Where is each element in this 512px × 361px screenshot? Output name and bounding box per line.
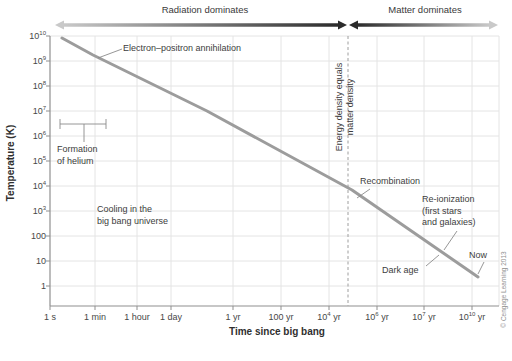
energy-density-annotation: Energy density equals matter density bbox=[334, 52, 356, 162]
reionization-line-3: and galaxies) bbox=[422, 217, 476, 229]
y-tick-label: 1010 bbox=[8, 31, 46, 41]
annotation-leader-line bbox=[478, 262, 484, 274]
y-tick-label: 104 bbox=[8, 181, 46, 191]
x-tick-label: 1 s bbox=[28, 312, 72, 322]
plot-svg bbox=[0, 0, 512, 361]
y-tick-label: 1 bbox=[8, 281, 46, 291]
formation-of-helium-annotation: Formation of helium bbox=[57, 143, 98, 167]
y-tick-label: 100 bbox=[8, 231, 46, 241]
recombination-annotation: Recombination bbox=[360, 175, 420, 187]
y-tick-label: 107 bbox=[8, 106, 46, 116]
formation-line-1: Formation bbox=[57, 143, 98, 155]
y-tick-label: 10 bbox=[8, 256, 46, 266]
matter-arrow-left-head bbox=[349, 21, 358, 30]
formation-line-2: of helium bbox=[57, 155, 98, 167]
cooling-annotation: Cooling in the big bang universe bbox=[97, 203, 168, 227]
annotation-leader-line bbox=[98, 49, 122, 58]
reionization-line-1: Re-ionization bbox=[422, 194, 476, 206]
matter-arrow-right-head bbox=[489, 21, 498, 30]
x-tick-label: 1 day bbox=[149, 312, 193, 322]
y-tick-label: 105 bbox=[8, 156, 46, 166]
energy-line-2: matter density bbox=[345, 52, 356, 162]
chart-layer bbox=[46, 36, 499, 310]
energy-line-1: Energy density equals bbox=[334, 52, 345, 162]
x-tick-label: 107 yr bbox=[402, 312, 446, 322]
radiation-arrow-left-head bbox=[55, 21, 64, 30]
x-axis-title: Time since big bang bbox=[222, 326, 332, 337]
matter-arrow bbox=[349, 21, 498, 30]
cosmology-temperature-figure: Radiation dominates Matter dominates Tem… bbox=[0, 0, 512, 361]
temperature-curve bbox=[62, 38, 478, 277]
dark-age-annotation: Dark age bbox=[382, 264, 419, 276]
electron-positron-annotation: Electron–positron annihilation bbox=[123, 42, 241, 54]
y-tick-label: 108 bbox=[8, 81, 46, 91]
x-tick-label: 106 yr bbox=[355, 312, 399, 322]
x-tick-label: 1 min bbox=[73, 312, 117, 322]
matter-dominates-label: Matter dominates bbox=[375, 4, 475, 15]
radiation-arrow bbox=[55, 21, 347, 30]
radiation-arrow-right-head bbox=[338, 21, 347, 30]
x-tick-label: 1 yr bbox=[211, 312, 255, 322]
cooling-line-1: Cooling in the bbox=[97, 203, 168, 215]
now-annotation: Now bbox=[469, 249, 487, 261]
copyright-credit: © Cengage Learning 2013 bbox=[500, 235, 509, 345]
cooling-line-2: big bang universe bbox=[97, 215, 168, 227]
x-tick-label: 1010 yr bbox=[450, 312, 494, 322]
reionization-line-2: (first stars bbox=[422, 206, 476, 218]
reionization-annotation: Re-ionization (first stars and galaxies) bbox=[422, 194, 476, 229]
x-tick-label: 104 yr bbox=[307, 312, 351, 322]
y-tick-label: 109 bbox=[8, 56, 46, 66]
x-tick-label: 100 yr bbox=[259, 312, 303, 322]
annotation-leader-line bbox=[444, 231, 457, 250]
y-tick-label: 106 bbox=[8, 131, 46, 141]
y-tick-label: 103 bbox=[8, 206, 46, 216]
radiation-dominates-label: Radiation dominates bbox=[150, 4, 260, 15]
